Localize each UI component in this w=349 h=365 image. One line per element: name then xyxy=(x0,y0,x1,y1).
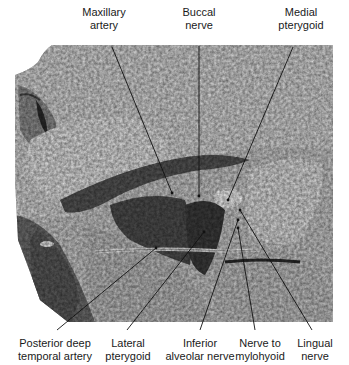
label-inferior-alveolar-nerve: Inferior alveolar nerve xyxy=(160,337,240,362)
label-maxillary-artery: Maxillary artery xyxy=(74,6,134,31)
label-nerve-to-mylohyoid: Nerve to mylohyoid xyxy=(232,337,288,362)
dissection-photo xyxy=(0,0,349,365)
label-buccal-nerve: Buccal nerve xyxy=(174,6,224,31)
anatomy-figure: Maxillary artery Buccal nerve Medial pte… xyxy=(0,0,349,365)
label-lateral-pterygoid: Lateral pterygoid xyxy=(102,337,154,362)
label-posterior-deep-temporal-artery: Posterior deep temporal artery xyxy=(14,337,96,362)
label-lingual-nerve: Lingual nerve xyxy=(293,337,337,362)
label-medial-pterygoid: Medial pterygoid xyxy=(270,6,332,31)
